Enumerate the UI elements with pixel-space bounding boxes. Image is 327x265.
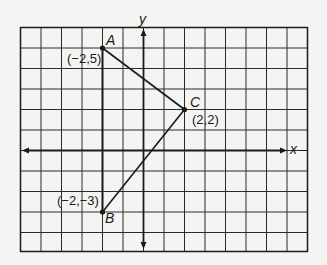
point-a-coord: (−2,5) [67, 52, 101, 65]
coordinate-plane [0, 0, 327, 265]
x-axis-right-arrow-icon [280, 148, 287, 154]
y-axis-down-arrow-icon [141, 242, 147, 249]
point-c [182, 107, 187, 112]
point-b-coord: (−2,−3) [57, 194, 99, 207]
point-a [100, 45, 105, 50]
x-axis-left-arrow-icon [22, 148, 29, 154]
y-axis-label: y [139, 12, 146, 26]
y-axis-up-arrow-icon [141, 29, 147, 36]
grid [20, 27, 308, 252]
point-a-label: A [106, 33, 115, 47]
y-axis [141, 29, 147, 249]
point-c-coord: (2,2) [192, 113, 219, 126]
point-b-label: B [105, 211, 114, 225]
x-axis-label: x [290, 142, 297, 156]
point-c-label: C [190, 95, 200, 109]
